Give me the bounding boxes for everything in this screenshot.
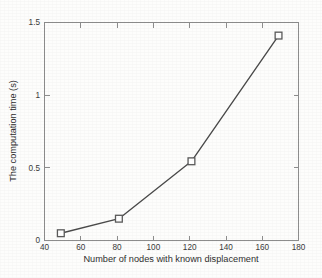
series-markers (57, 32, 282, 236)
data-point-marker (275, 32, 282, 39)
x-tick-label: 120 (183, 243, 197, 252)
data-point-marker (115, 215, 122, 222)
data-series-computation-time (57, 32, 282, 236)
x-tick-label: 60 (76, 243, 86, 252)
y-tick-label: 1.5 (29, 18, 41, 27)
x-axis-title: Number of nodes with known displacement (83, 254, 259, 264)
y-tick-label: 1 (35, 91, 40, 100)
data-point-marker (57, 230, 64, 237)
x-tick-label: 100 (147, 243, 161, 252)
series-line (61, 36, 279, 234)
x-tick-label: 140 (219, 243, 233, 252)
figure-canvas: 40 60 80 100 120 140 160 180 0 0.5 1 1.5… (0, 0, 322, 278)
y-axis-ticks (45, 23, 299, 241)
x-tick-label: 40 (40, 243, 50, 252)
y-tick-label: 0.5 (29, 164, 41, 173)
x-tick-labels: 40 60 80 100 120 140 160 180 (40, 243, 306, 252)
line-chart: 40 60 80 100 120 140 160 180 0 0.5 1 1.5… (0, 0, 322, 278)
y-tick-label: 0 (35, 236, 40, 245)
y-tick-labels: 0 0.5 1 1.5 (29, 18, 41, 245)
plot-frame (45, 23, 299, 241)
data-point-marker (188, 158, 195, 165)
x-tick-label: 160 (255, 243, 269, 252)
x-tick-label: 180 (292, 243, 306, 252)
x-tick-label: 80 (113, 243, 123, 252)
x-axis-ticks (45, 23, 299, 241)
y-axis-title: The computation time (s) (8, 80, 18, 182)
